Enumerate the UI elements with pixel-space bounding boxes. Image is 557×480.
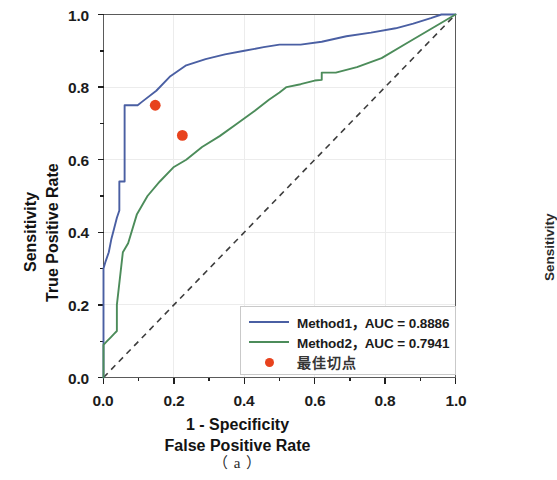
x-axis-title-specificity: 1 - Specificity [0,416,475,434]
legend-label-method2: Method2，AUC = 0.7941 [297,332,449,352]
legend-line-swatch-method1 [249,321,289,323]
y-tick-0-8: 0.8 [45,79,89,97]
legend-line-swatch-method2 [249,341,289,343]
legend-item-optimal-cutoff[interactable]: 最佳切点 [241,352,455,372]
optimal-cutoff-markers [150,100,188,141]
legend-item-method2[interactable]: Method2，AUC = 0.7941 [241,332,455,352]
x-tick-1-0: 1.0 [434,392,478,410]
x-tick-0-2: 0.2 [152,392,196,410]
y-tick-0-0: 0.0 [45,370,89,388]
right-panel-partial-axis-title: Sensitivity [542,213,557,281]
legend-label-method1: Method1，AUC = 0.8886 [297,312,449,332]
y-axis-title-true-positive-rate: True Positive Rate [44,163,62,302]
legend-dot-swatch-optimal-cutoff [265,358,274,367]
optimal-cutoff-marker-1 [150,100,161,111]
figure-caption: （ a ） [0,451,475,472]
optimal-cutoff-marker-2 [177,130,188,141]
x-tick-0-0: 0.0 [81,392,125,410]
legend-label-optimal-cutoff: 最佳切点 [297,352,357,372]
x-tick-0-8: 0.8 [363,392,407,410]
x-tick-0-4: 0.4 [222,392,266,410]
legend-item-method1[interactable]: Method1，AUC = 0.8886 [241,312,455,332]
y-tick-1-0: 1.0 [45,7,89,25]
roc-figure: 1.0 0.8 0.6 0.4 0.2 0.0 0.0 0.2 0.4 0.6 … [0,0,557,480]
legend-dot-swatch-wrap [249,358,289,367]
x-tick-0-6: 0.6 [293,392,337,410]
legend: Method1，AUC = 0.8886 Method2，AUC = 0.794… [240,306,456,375]
y-axis-title-sensitivity: Sensitivity [22,192,40,272]
